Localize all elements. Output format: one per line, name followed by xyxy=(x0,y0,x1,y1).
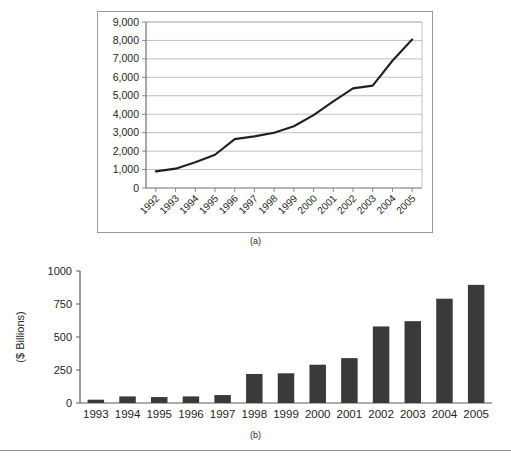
x-tick-label-b: 2002 xyxy=(368,408,394,420)
bar-2000 xyxy=(309,365,325,403)
bar-1994 xyxy=(119,396,135,403)
y-tick-label-b: 1000 xyxy=(48,265,72,277)
y-tick-label-a: 4,000 xyxy=(113,108,139,120)
y-tick-label-b: 750 xyxy=(54,298,72,310)
bar-2002 xyxy=(373,326,389,403)
y-tick-label-a: 5,000 xyxy=(113,89,139,101)
footer-divider xyxy=(0,450,511,451)
x-tick-label-a: 1993 xyxy=(157,192,181,216)
bar-1999 xyxy=(278,373,294,403)
y-tick-label-a: 1,000 xyxy=(113,163,139,175)
x-tick-label-a: 2001 xyxy=(315,192,339,216)
caption-b: (b) xyxy=(0,430,511,440)
bar-1995 xyxy=(151,397,167,403)
x-tick-label-b: 2000 xyxy=(305,408,331,420)
x-tick-label-b: 1994 xyxy=(115,408,141,420)
y-tick-label-b: 500 xyxy=(54,331,72,343)
x-tick-label-a: 2003 xyxy=(355,192,379,216)
x-tick-label-b: 1993 xyxy=(83,408,109,420)
x-tick-label-a: 2002 xyxy=(335,192,359,216)
x-tick-label-a: 1992 xyxy=(138,192,162,216)
x-tick-label-a: 1996 xyxy=(217,192,241,216)
bar-1998 xyxy=(246,374,262,403)
x-tick-label-a: 1994 xyxy=(177,192,201,216)
x-tick-label-a: 2004 xyxy=(374,192,398,216)
x-tick-label-a: 1998 xyxy=(256,192,280,216)
x-tick-label-b: 1998 xyxy=(242,408,268,420)
x-tick-label-b: 1996 xyxy=(178,408,204,420)
x-tick-label-b: 2004 xyxy=(432,408,458,420)
caption-a: (a) xyxy=(0,236,511,246)
x-tick-label-b: 2005 xyxy=(463,408,489,420)
line-chart-svg: 9,0008,0007,0006,0005,0004,0003,0002,000… xyxy=(98,12,432,232)
y-tick-label-a: 8,000 xyxy=(113,34,139,46)
bar-2005 xyxy=(468,285,484,403)
bar-2001 xyxy=(341,358,357,403)
x-tick-label-a: 1995 xyxy=(197,192,221,216)
x-tick-label-b: 2003 xyxy=(400,408,426,420)
y-tick-label-a: 2,000 xyxy=(113,145,139,157)
x-tick-label-b: 1997 xyxy=(210,408,236,420)
x-tick-label-a: 1999 xyxy=(276,192,300,216)
x-tick-label-b: 1999 xyxy=(273,408,299,420)
bar-2004 xyxy=(436,299,452,403)
x-tick-label-a: 2005 xyxy=(394,192,418,216)
y-tick-label-a: 6,000 xyxy=(113,71,139,83)
y-tick-label-b: 0 xyxy=(66,397,72,409)
y-tick-label-b: 250 xyxy=(54,364,72,376)
x-tick-label-a: 1997 xyxy=(236,192,260,216)
line-chart-panel: 9,0008,0007,0006,0005,0004,0003,0002,000… xyxy=(97,11,433,233)
line-chart-plot-area: 9,0008,0007,0006,0005,0004,0003,0002,000… xyxy=(98,12,432,232)
y-axis-title-b: ($ Billions) xyxy=(14,311,26,362)
x-tick-label-b: 2001 xyxy=(337,408,363,420)
x-tick-label-a: 2000 xyxy=(295,192,319,216)
bar-1996 xyxy=(183,396,199,403)
y-tick-label-a: 0 xyxy=(133,182,139,194)
y-tick-label-a: 3,000 xyxy=(113,126,139,138)
bar-chart-panel: 10007505002500($ Billions)19931994199519… xyxy=(6,258,504,428)
y-tick-label-a: 9,000 xyxy=(113,16,139,28)
bar-1997 xyxy=(214,395,230,403)
y-tick-label-a: 7,000 xyxy=(113,52,139,64)
x-tick-label-b: 1995 xyxy=(146,408,172,420)
figure-page: 9,0008,0007,0006,0005,0004,0003,0002,000… xyxy=(0,0,511,456)
bar-chart-svg: 10007505002500($ Billions)19931994199519… xyxy=(6,258,504,428)
bar-2003 xyxy=(405,321,421,403)
bar-1993 xyxy=(88,400,104,403)
